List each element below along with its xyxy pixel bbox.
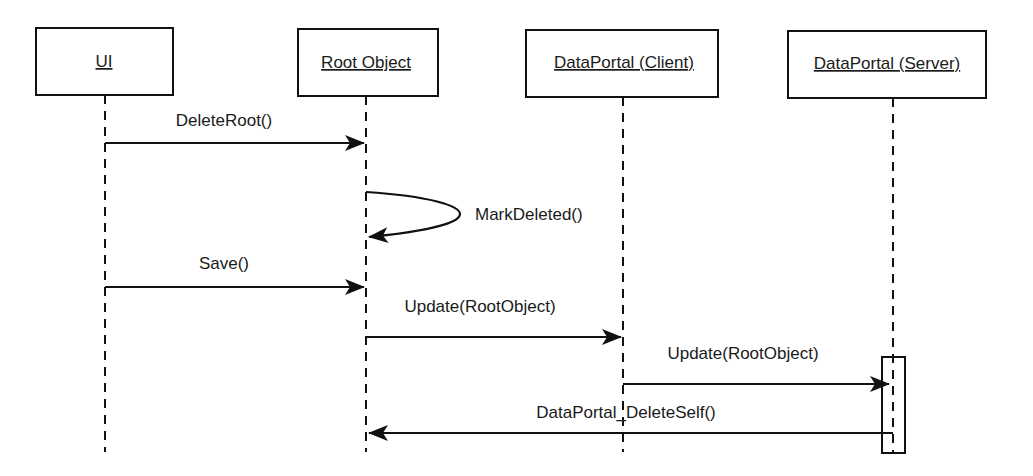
message-save: Save() (105, 254, 364, 287)
participant-label: DataPortal (Server) (814, 54, 960, 73)
participant-dataportal-client: DataPortal (Client) (526, 30, 718, 97)
participant-dataportal-server: DataPortal (Server) (788, 31, 986, 98)
message-label: MarkDeleted() (475, 205, 583, 224)
message-label: Update(RootObject) (667, 344, 818, 363)
sequence-diagram: UI Root Object DataPortal (Client) DataP… (0, 0, 1033, 476)
message-label: DeleteRoot() (176, 111, 272, 130)
participant-label: Root Object (321, 53, 411, 72)
message-update-client-to-server: Update(RootObject) (623, 344, 889, 384)
message-update-root-to-client: Update(RootObject) (366, 297, 621, 337)
message-mark-deleted: MarkDeleted() (366, 192, 583, 237)
participant-ui: UI (36, 28, 173, 95)
participant-label: UI (96, 52, 113, 71)
message-delete-root: DeleteRoot() (105, 111, 364, 143)
message-dataportal-deleteself: DataPortal_DeleteSelf() (369, 403, 893, 433)
message-label: Update(RootObject) (404, 297, 555, 316)
message-label: Save() (199, 254, 249, 273)
participant-root-object: Root Object (298, 29, 438, 96)
message-label: DataPortal_DeleteSelf() (536, 403, 716, 422)
participant-label: DataPortal (Client) (554, 53, 694, 72)
